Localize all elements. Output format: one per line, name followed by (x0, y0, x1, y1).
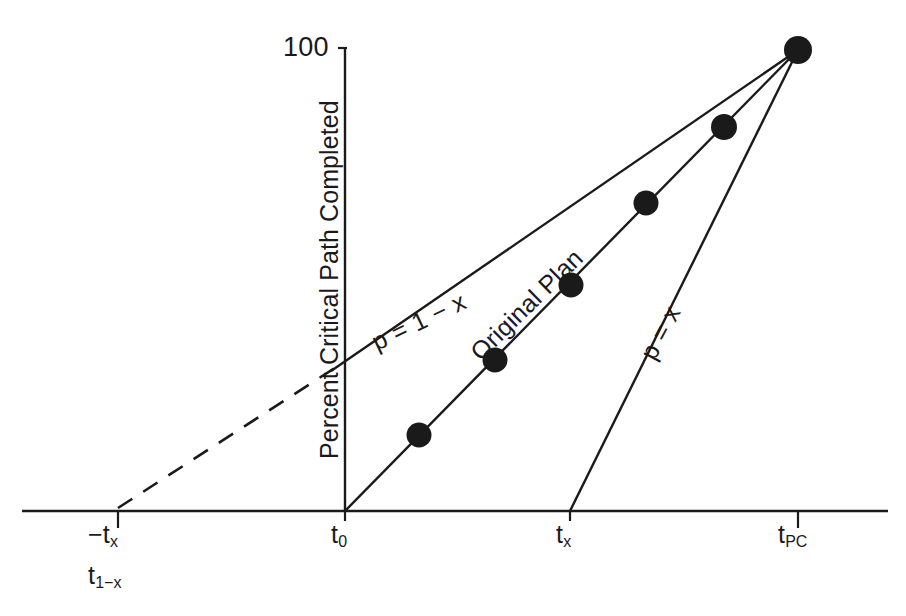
x-axis-tick-label-t1minusx: t1−x (88, 563, 121, 588)
upper-line-dashed-extension (118, 362, 344, 508)
data-point-marker (407, 423, 432, 448)
tick-subscript: 0 (338, 533, 347, 550)
y-axis-title: Percent Critical Path Completed (317, 100, 342, 459)
data-point-marker-convergence (784, 36, 812, 64)
tick-base: −t (88, 520, 110, 548)
x-axis-tick-label-tpc: tPC (778, 522, 807, 547)
chart-figure: 100 Percent Critical Path Completed p = … (0, 0, 906, 616)
tick-subscript: x (110, 533, 118, 550)
x-axis-tick-label-neg-tx: −tx (88, 522, 118, 547)
tick-subscript: PC (785, 533, 807, 550)
tick-subscript: 1−x (95, 574, 121, 591)
data-point-marker (711, 114, 737, 140)
data-point-marker (634, 191, 659, 216)
x-axis-tick-label-t0: t0 (331, 522, 347, 547)
tick-subscript: x (563, 533, 571, 550)
y-axis-tick-label-100: 100 (283, 34, 329, 61)
x-axis-tick-label-tx: tx (556, 522, 571, 547)
lower-line-p-equals-x (570, 50, 798, 511)
